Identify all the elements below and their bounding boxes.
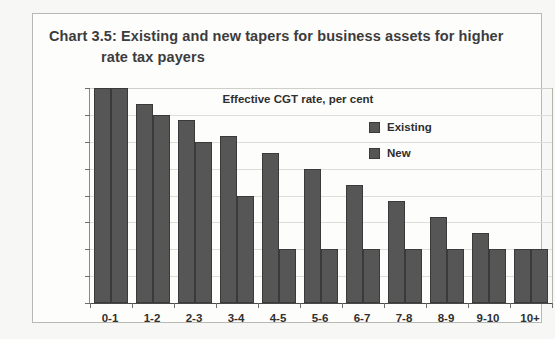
bar-group <box>430 88 464 303</box>
x-axis-tick-mark <box>132 303 133 308</box>
bar-new-9-10 <box>489 249 506 303</box>
bar-existing-2-3 <box>178 120 195 303</box>
y-axis-tick-mark <box>85 276 90 277</box>
y-axis-tick-mark <box>85 88 90 89</box>
x-axis-tick-label-10+: 10+ <box>500 312 555 324</box>
bar-new-0-1 <box>111 88 128 303</box>
bar-existing-4-5 <box>262 153 279 304</box>
x-axis-tick-mark <box>468 303 469 308</box>
x-axis-tick-mark <box>174 303 175 308</box>
chart-page: Chart 3.5: Existing and new tapers for b… <box>0 0 555 339</box>
y-axis-tick-mark <box>85 115 90 116</box>
bar-group <box>304 88 338 303</box>
bar-new-4-5 <box>279 249 296 303</box>
bar-existing-0-1 <box>94 88 111 303</box>
bar-group <box>262 88 296 303</box>
y-axis-tick-mark <box>85 169 90 170</box>
y-axis-tick-mark <box>85 142 90 143</box>
bar-group <box>220 88 254 303</box>
y-axis-tick-mark <box>85 249 90 250</box>
x-axis-tick-mark <box>216 303 217 308</box>
bar-existing-8-9 <box>430 217 447 303</box>
plot-area <box>89 88 553 304</box>
x-axis-tick-mark <box>342 303 343 308</box>
bar-new-10+ <box>531 249 548 303</box>
x-axis-tick-mark <box>384 303 385 308</box>
chart-figure-frame: Chart 3.5: Existing and new tapers for b… <box>32 13 542 323</box>
x-axis-tick-mark <box>300 303 301 308</box>
bar-existing-10+ <box>514 249 531 303</box>
x-axis-tick-mark <box>552 303 553 308</box>
bar-group <box>346 88 380 303</box>
bar-new-1-2 <box>153 115 170 303</box>
x-axis-tick-mark <box>258 303 259 308</box>
y-axis-tick-mark <box>85 222 90 223</box>
bar-new-8-9 <box>447 249 464 303</box>
chart-title-line-2: rate tax payers <box>49 47 521 68</box>
x-axis-tick-mark <box>90 303 91 308</box>
bar-existing-3-4 <box>220 136 237 303</box>
y-axis-tick-mark <box>85 196 90 197</box>
chart-title-line-1: Chart 3.5: Existing and new tapers for b… <box>49 28 504 44</box>
x-axis-tick-mark <box>510 303 511 308</box>
bar-group <box>388 88 422 303</box>
bar-existing-9-10 <box>472 233 489 303</box>
bar-group <box>136 88 170 303</box>
page-title: Chart 3.5: Existing and new tapers for b… <box>49 26 521 67</box>
bar-new-3-4 <box>237 196 254 304</box>
bar-existing-7-8 <box>388 201 405 303</box>
bar-new-7-8 <box>405 249 422 303</box>
bar-existing-5-6 <box>304 169 321 303</box>
bar-group <box>472 88 506 303</box>
x-axis-tick-mark <box>426 303 427 308</box>
bar-group <box>514 88 548 303</box>
bar-existing-1-2 <box>136 104 153 303</box>
bar-group <box>94 88 128 303</box>
bar-new-2-3 <box>195 142 212 303</box>
bar-existing-6-7 <box>346 185 363 303</box>
bar-new-6-7 <box>363 249 380 303</box>
bar-new-5-6 <box>321 249 338 303</box>
bar-group <box>178 88 212 303</box>
